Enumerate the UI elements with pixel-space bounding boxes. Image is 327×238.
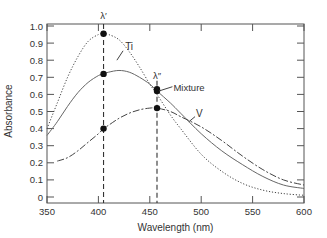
data-point-marker <box>100 71 106 77</box>
series-label-mixture: Mixture <box>173 82 204 93</box>
curve-v <box>57 108 304 185</box>
series-label-v: V <box>196 108 203 119</box>
x-tick-label: 350 <box>39 206 55 217</box>
y-tick-label: 0.8 <box>30 55 43 66</box>
ti-leader-line <box>117 51 123 60</box>
series-labels: TiMixtureVλ′λ″ <box>100 10 204 122</box>
data-point-marker <box>154 105 160 111</box>
absorbance-chart: 00.10.20.30.40.50.60.70.80.91.0350400450… <box>0 0 327 238</box>
x-tick-label: 600 <box>296 206 312 217</box>
v-leader-line <box>189 117 195 122</box>
y-tick-label: 0.3 <box>30 140 43 151</box>
x-tick-label: 500 <box>193 206 209 217</box>
y-tick-label: 0.2 <box>30 157 43 168</box>
y-tick-label: 1.0 <box>30 21 43 32</box>
series-label-ti: Ti <box>125 41 133 52</box>
lambda-prime-label: λ′ <box>100 10 107 21</box>
y-tick-label: 0.4 <box>30 123 43 134</box>
data-point-marker <box>100 30 106 36</box>
mixture-leader-line <box>159 87 172 91</box>
axis-ticks: 00.10.20.30.40.50.60.70.80.91.0350400450… <box>30 21 312 218</box>
x-axis-label: Wavelength (nm) <box>138 222 214 233</box>
x-tick-label: 450 <box>142 206 158 217</box>
y-tick-label: 0 <box>38 192 43 203</box>
data-point-marker <box>100 125 106 131</box>
y-tick-label: 0.6 <box>30 89 43 100</box>
y-tick-label: 0.9 <box>30 38 43 49</box>
y-tick-label: 0.7 <box>30 72 43 83</box>
y-axis-label: Absorbance <box>3 84 14 138</box>
y-tick-label: 0.1 <box>30 174 43 185</box>
y-tick-label: 0.5 <box>30 106 43 117</box>
x-tick-label: 550 <box>245 206 261 217</box>
spectra-curves <box>47 34 304 196</box>
curve-ti <box>47 34 304 196</box>
x-tick-label: 400 <box>90 206 106 217</box>
lambda-double-prime-label: λ″ <box>153 70 162 81</box>
